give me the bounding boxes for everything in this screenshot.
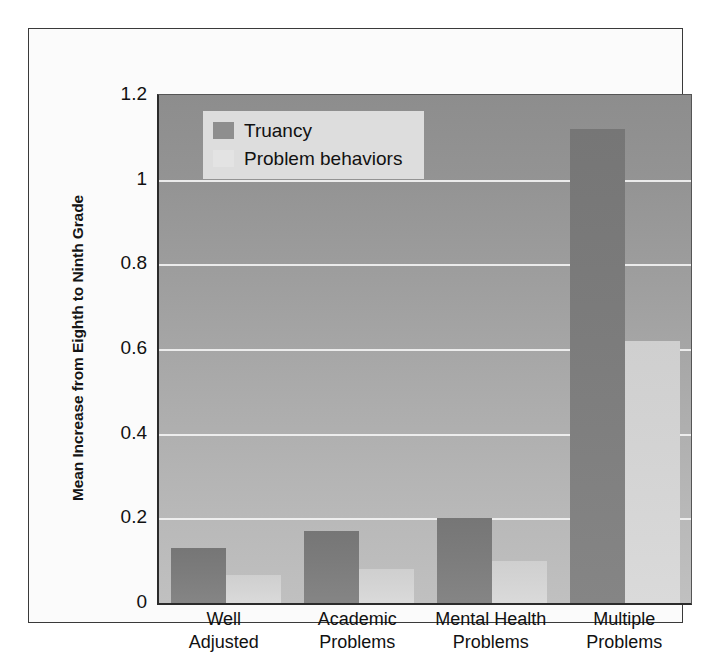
x-axis-category-labels: WellAdjustedAcademicProblemsMental Healt…	[157, 608, 691, 656]
legend-item-truancy: Truancy	[213, 119, 402, 142]
legend-item-problem-behaviors: Problem behaviors	[213, 147, 402, 170]
bar-truancy-3	[437, 518, 492, 603]
legend-swatch-problem-behaviors	[213, 150, 234, 167]
x-axis-label-line1: Well	[157, 608, 291, 631]
x-axis-label-1: WellAdjusted	[157, 608, 291, 656]
y-axis-tick: 0.6	[121, 337, 147, 359]
legend-label-problem-behaviors: Problem behaviors	[244, 149, 402, 168]
figure-frame: Mean Increase from Eighth to Ninth Grade…	[28, 28, 683, 623]
y-axis-tick: 1	[136, 168, 147, 190]
bar-problem-4	[625, 341, 680, 603]
x-axis-label-line1: Academic	[291, 608, 425, 631]
bar-problem-2	[359, 569, 414, 603]
x-axis-label-line1: Multiple	[558, 608, 692, 631]
bar-truancy-1	[171, 548, 226, 603]
y-axis-tick: 1.2	[121, 83, 147, 105]
x-axis-label-line2: Problems	[558, 631, 692, 654]
x-axis-label-4: MultipleProblems	[558, 608, 692, 656]
x-axis-label-line2: Problems	[291, 631, 425, 654]
x-axis-label-line2: Adjusted	[157, 631, 291, 654]
y-axis-tick: 0.8	[121, 252, 147, 274]
x-axis-label-3: Mental HealthProblems	[424, 608, 558, 656]
legend-swatch-truancy	[213, 122, 234, 139]
x-axis-label-line2: Problems	[424, 631, 558, 654]
bar-problem-1	[226, 575, 281, 603]
legend-label-truancy: Truancy	[244, 121, 312, 140]
x-axis-label-line1: Mental Health	[424, 608, 558, 631]
bar-problem-3	[492, 561, 547, 603]
plot-area: Truancy Problem behaviors	[157, 94, 692, 605]
y-axis-tick: 0.4	[121, 422, 147, 444]
y-axis-tick-labels: 00.20.40.60.811.2	[87, 94, 153, 602]
x-axis-label-2: AcademicProblems	[291, 608, 425, 656]
y-axis-tick: 0.2	[121, 506, 147, 528]
bar-truancy-2	[304, 531, 359, 603]
y-axis-tick: 0	[136, 591, 147, 613]
chart-legend: Truancy Problem behaviors	[203, 111, 424, 179]
bar-truancy-4	[570, 129, 625, 603]
